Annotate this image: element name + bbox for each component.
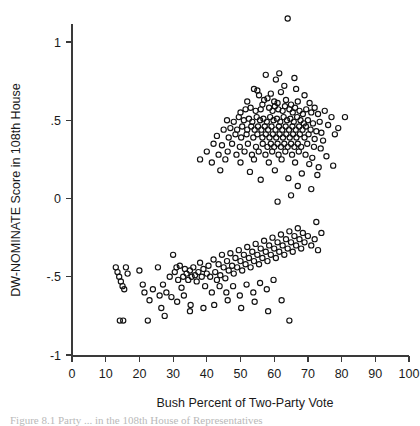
scatter-point: [256, 93, 261, 98]
y-tick-label: 0: [54, 192, 61, 206]
scatter-point: [216, 262, 221, 267]
scatter-point: [277, 71, 282, 76]
scatter-point: [283, 97, 288, 102]
scatter-point: [140, 282, 145, 287]
scatter-point: [209, 290, 214, 295]
scatter-point: [316, 165, 321, 170]
scatter-point: [282, 141, 287, 146]
scatter-point: [147, 298, 152, 303]
scatter-point: [243, 262, 248, 267]
scatter-point: [266, 309, 271, 314]
scatter-point: [201, 266, 206, 271]
scatter-point: [234, 152, 239, 157]
scatter-point: [279, 298, 284, 303]
x-axis-label: Bush Percent of Two-Party Vote: [157, 396, 334, 410]
scatter-point: [312, 237, 317, 242]
scatter-point: [204, 149, 209, 154]
scatter-point: [275, 240, 280, 245]
scatter-point: [159, 305, 164, 310]
scatter-point: [272, 246, 277, 251]
scatter-point: [295, 141, 300, 146]
scatter-point: [265, 259, 270, 264]
scatter-point: [223, 157, 228, 162]
scatter-point: [209, 160, 214, 165]
scatter-point: [287, 229, 292, 234]
scatter-point: [285, 16, 290, 21]
scatter-point: [292, 144, 297, 149]
x-tick-label: 90: [368, 367, 382, 381]
scatter-point: [319, 230, 324, 235]
scatter-point: [280, 243, 285, 248]
scatter-point: [252, 299, 257, 304]
scatter-point: [214, 133, 219, 138]
scatter-point: [306, 132, 311, 137]
scatter-point: [245, 141, 250, 146]
scatter-point: [329, 115, 334, 120]
scatter-point: [197, 157, 202, 162]
scatter-point: [253, 108, 258, 113]
scatter-point: [300, 230, 305, 235]
scatter-point: [305, 118, 310, 123]
scatter-point: [231, 271, 236, 276]
scatter-point: [283, 237, 288, 242]
scatter-point: [332, 132, 337, 137]
scatter-point: [246, 255, 251, 260]
scatter-point: [315, 111, 320, 116]
scatter-point: [241, 252, 246, 257]
scatter-point: [216, 152, 221, 157]
scatter-point: [224, 118, 229, 123]
scatter-point: [214, 277, 219, 282]
scatter-point: [145, 318, 150, 323]
scatter-point: [245, 99, 250, 104]
scatter-point: [242, 149, 247, 154]
scatter-point: [196, 269, 201, 274]
scatter-point: [221, 127, 226, 132]
scatter-point: [241, 118, 246, 123]
scatter-point: [319, 130, 324, 135]
scatter-point: [248, 265, 253, 270]
scatter-point: [221, 265, 226, 270]
scatter-point: [264, 287, 269, 292]
scatter-point: [229, 263, 234, 268]
scatter-point: [230, 284, 235, 289]
scatter-point: [238, 259, 243, 264]
y-axis-label: DW-NOMINATE Score in 108th House: [9, 83, 23, 297]
scatter-point: [263, 249, 268, 254]
scatter-point: [235, 265, 240, 270]
scatter-point: [294, 86, 299, 91]
scatter-point: [211, 257, 216, 262]
scatter-point: [314, 129, 319, 134]
scatter-point: [303, 152, 308, 157]
scatter-point: [225, 149, 230, 154]
scatter-point: [292, 233, 297, 238]
scatter-point: [155, 265, 160, 270]
scatter-point: [219, 143, 224, 148]
scatter-point: [307, 100, 312, 105]
scatter-point: [275, 199, 280, 204]
scatter-point: [287, 318, 292, 323]
scatter-point: [277, 249, 282, 254]
scatter-point: [244, 282, 249, 287]
scatter-point: [238, 160, 243, 165]
scatter-point: [256, 262, 261, 267]
scatter-point: [208, 274, 213, 279]
x-axis-ticks: 0102030405060708090100: [69, 356, 420, 381]
scatter-point: [247, 169, 252, 174]
scatter-point: [312, 136, 317, 141]
scatter-point: [265, 144, 270, 149]
scatter-point: [297, 132, 302, 137]
scatter-point: [211, 141, 216, 146]
scatter-point: [233, 132, 238, 137]
scatter-point: [160, 282, 165, 287]
scatter-point: [123, 265, 128, 270]
scatter-point: [236, 115, 241, 120]
scatter-point: [268, 252, 273, 257]
scatter-point: [187, 309, 192, 314]
scatter-point: [305, 141, 310, 146]
scatter-point: [258, 177, 263, 182]
scatter-point: [217, 284, 222, 289]
scatter-point: [150, 287, 155, 292]
scatter-point: [258, 246, 263, 251]
